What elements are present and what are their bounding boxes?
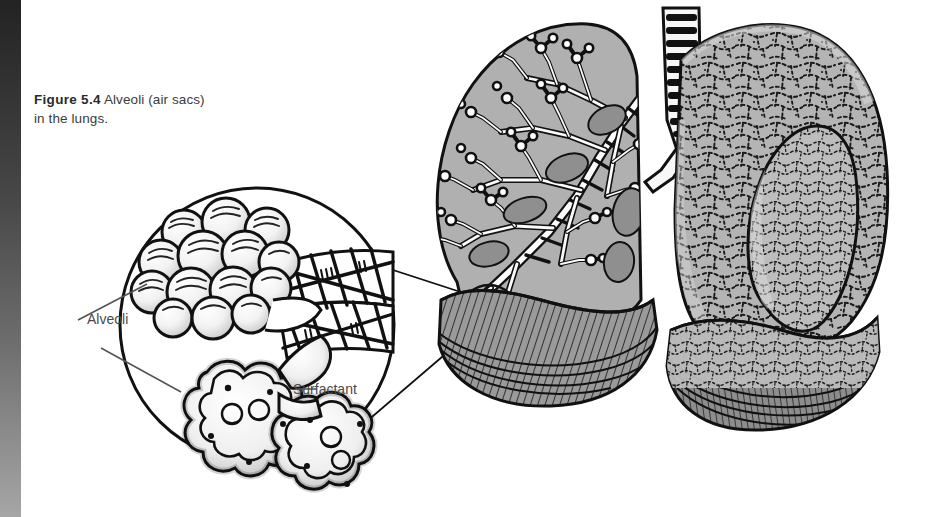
lungs-illustration: Alveoli Surfactant	[21, 0, 933, 517]
illustration-svg: Alveoli Surfactant	[21, 0, 933, 517]
page-gutter-strip	[0, 0, 21, 517]
right-lung	[661, 25, 891, 431]
label-alveoli: Alveoli	[87, 311, 128, 327]
left-lung	[430, 24, 667, 406]
right-lung-base	[661, 318, 891, 430]
figure-page: Figure 5.4 Alveoli (air sacs) in the lun…	[0, 0, 933, 517]
label-surfactant: Surfactant	[293, 381, 357, 397]
magnified-inset: Alveoli Surfactant	[78, 188, 394, 496]
